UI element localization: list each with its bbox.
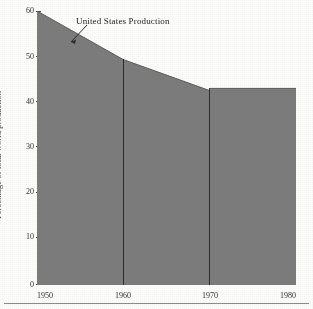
x-tick-1980: 1980 (280, 292, 296, 300)
x-tick-1960: 1960 (115, 292, 131, 300)
y-tick-10: 10 (0, 232, 37, 242)
y-tick-50: 50 (0, 52, 37, 62)
y-tick-0: 0 (0, 280, 37, 290)
y-tick-60: 60 (0, 6, 37, 16)
annotation-leader-line (66, 24, 88, 46)
area-series-united-states-production (37, 11, 296, 285)
y-axis-label: Percentage of total world production (0, 90, 3, 218)
chart-figure: Percentage of total world production 60 … (0, 0, 313, 309)
y-tick-40: 40 (0, 97, 37, 107)
y-tick-30: 30 (0, 142, 37, 152)
x-tick-1970: 1970 (202, 292, 218, 300)
x-tick-1950: 1950 (37, 292, 53, 300)
y-tick-20: 20 (0, 187, 37, 197)
plot-area (37, 11, 296, 285)
divider-1970 (209, 88, 210, 285)
annotation-united-states-production: United States Production (76, 16, 170, 26)
divider-1960 (123, 59, 124, 285)
footer-rule (4, 303, 309, 304)
